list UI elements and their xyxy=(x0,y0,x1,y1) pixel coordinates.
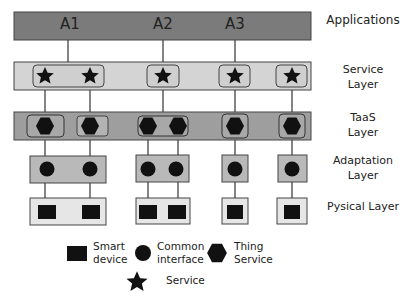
taas-layer xyxy=(14,112,311,140)
layer-label-taas: TaaS Layer xyxy=(318,110,403,140)
layer-label-line: Service xyxy=(318,62,403,77)
layer-label-service: Service Layer xyxy=(318,62,403,92)
legend-smart-device-icon xyxy=(67,246,87,261)
smart-device-square-icon xyxy=(284,205,300,219)
adaptation-layer xyxy=(30,155,307,183)
app-label-a2: A2 xyxy=(148,17,178,32)
app-label-a1: A1 xyxy=(55,17,85,32)
smart-device-square-icon xyxy=(139,205,157,219)
smart-device-square-icon xyxy=(168,205,186,219)
layer-label-line: Layer xyxy=(318,125,403,140)
legend-label-common-interface: Common interface xyxy=(157,240,204,266)
legend-line: Service xyxy=(234,253,273,266)
common-interface-circle-icon xyxy=(169,162,184,177)
smart-device-square-icon xyxy=(38,205,56,219)
legend-line: Smart xyxy=(93,240,128,253)
legend-common-interface-icon xyxy=(135,245,151,261)
layer-label-line: Layer xyxy=(318,77,403,92)
layer-label-applications: Applications xyxy=(318,13,403,28)
layer-label-line: Layer xyxy=(318,168,403,183)
legend-line: interface xyxy=(157,253,204,266)
common-interface-circle-icon xyxy=(83,162,98,177)
common-interface-circle-icon xyxy=(141,162,156,177)
legend-line: device xyxy=(93,253,128,266)
layer-label-physical: Pysical Layer xyxy=(316,199,403,214)
legend-label-service: Service xyxy=(166,274,205,287)
layer-label-line: TaaS xyxy=(318,110,403,125)
smart-device-square-icon xyxy=(227,205,243,219)
physical-layer xyxy=(30,198,307,225)
layer-label-adaptation: Adaptation Layer xyxy=(318,153,403,183)
legend-service-icon xyxy=(126,271,147,291)
service-layer xyxy=(14,62,311,90)
common-interface-circle-icon xyxy=(40,162,55,177)
smart-device-square-icon xyxy=(82,205,100,219)
app-label-a3: A3 xyxy=(220,17,250,32)
legend-label-smart-device: Smart device xyxy=(93,240,128,266)
common-interface-circle-icon xyxy=(228,162,243,177)
legend-thing-service-icon xyxy=(207,244,227,263)
legend-line: Thing xyxy=(234,240,273,253)
layer-label-line: Adaptation xyxy=(318,153,403,168)
legend-line: Common xyxy=(157,240,204,253)
common-interface-circle-icon xyxy=(285,162,300,177)
legend-label-thing-service: Thing Service xyxy=(234,240,273,266)
